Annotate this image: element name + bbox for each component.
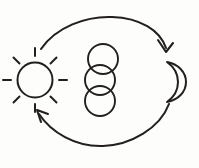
overlapping-circles-icon [85,44,118,116]
arrow-bottom-arc [39,104,169,146]
moon-body [167,62,186,102]
arrow-bottom [37,104,169,146]
circle-bottom [85,86,115,116]
sun-ray-nw [14,58,20,64]
circle-top [88,44,118,74]
arrow-top [41,17,173,52]
sun-body [18,63,53,98]
sun-ray-ne [51,58,57,64]
day-night-cycle-diagram: Day and night cycle [0,0,199,168]
sun-ray-sw [14,97,20,103]
crescent-moon-icon [167,62,186,102]
diagram-svg: Day and night cycle [0,0,199,168]
sun-icon [3,48,67,112]
sun-ray-se [51,97,57,103]
